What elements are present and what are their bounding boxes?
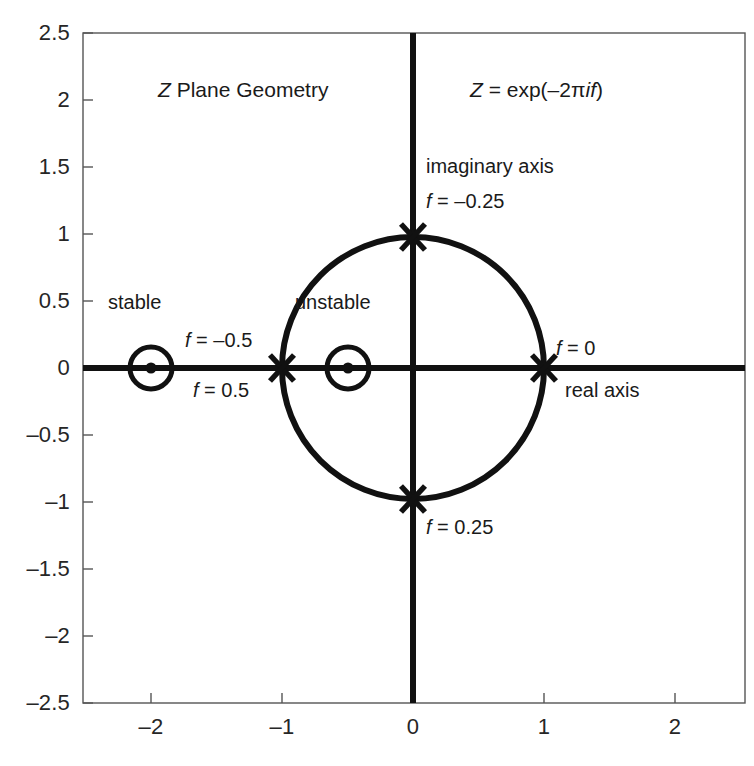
y-tick-label: –2.5 [8,690,70,716]
f-pos-0-5-label: f = 0.5 [193,379,249,402]
f-value: = 0.25 [432,516,494,538]
f-zero-label: f = 0 [556,337,595,360]
f-value: = 0.5 [199,379,250,401]
title-z-symbol: Z [158,78,171,101]
stable-region-label: stable [108,291,161,314]
f-value: = –0.25 [432,190,505,212]
x-tick-label: 0 [407,714,419,740]
formula-eq: = exp(–2 [483,78,571,101]
plot-canvas [0,0,754,766]
x-tick-label: –1 [270,714,295,740]
unstable-region-label: unstable [295,291,371,314]
imaginary-axis-label: imaginary axis [426,155,554,178]
formula-if-symbol: if [585,78,596,101]
y-tick-label: 2 [8,87,70,113]
chart-title: Z Plane Geometry [158,78,328,102]
y-tick-label: –0.5 [8,422,70,448]
x-tick-label: 1 [538,714,550,740]
f-0-25-label: f = 0.25 [426,516,493,539]
y-tick-label: –2 [8,623,70,649]
x-tick-label: 2 [669,714,681,740]
y-tick-label: –1.5 [8,556,70,582]
y-tick-label: 1.5 [8,154,70,180]
y-tick-label: 1 [8,221,70,247]
formula-z-symbol: Z [470,78,483,101]
y-tick-label: 0.5 [8,288,70,314]
y-tick-label: 0 [8,355,70,381]
y-tick-label: –1 [8,489,70,515]
z-plane-geometry-figure: 2.5 2 1.5 1 0.5 0 –0.5 –1 –1.5 –2 –2.5 –… [0,0,754,766]
title-text: Plane Geometry [171,78,329,101]
x-tick-label: –2 [139,714,164,740]
f-neg-0-25-label: f = –0.25 [426,190,504,213]
f-value: = 0 [562,337,596,359]
f-value: = –0.5 [191,329,253,351]
f-neg-0-5-label: f = –0.5 [185,329,252,352]
formula-close-paren: ) [596,78,603,101]
formula-label: Z = exp(–2πif) [470,78,603,102]
formula-pi-symbol: π [571,78,586,101]
y-tick-label: 2.5 [8,20,70,46]
real-axis-label: real axis [565,379,639,402]
